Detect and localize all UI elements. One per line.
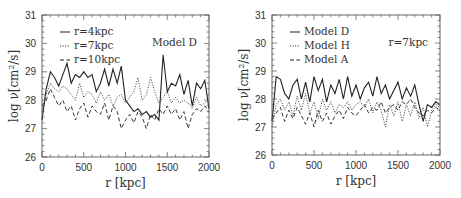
y-tick-label: 30 (25, 38, 37, 49)
y-tick-label: 29 (25, 66, 37, 77)
x-tick-labels: 0500100015002000 (269, 160, 451, 171)
data-series-group (42, 55, 209, 129)
y-tick-label: 26 (25, 152, 37, 163)
y-tick-label: 26 (255, 150, 267, 161)
x-tick-label: 1000 (114, 162, 137, 173)
x-tick-label: 0 (39, 162, 45, 173)
x-tick-label: 500 (306, 160, 323, 171)
legend-label: r=10kpc (74, 53, 120, 65)
x-tick-label: 1500 (156, 162, 179, 173)
line-chart-r7kpc: 0500100015002000262728293031r [kpc]log ν… (230, 0, 461, 198)
series-line-model-h (272, 93, 440, 127)
y-axis-title: log ν[cm²/s] (237, 49, 251, 121)
data-series-group (272, 77, 440, 127)
x-tick-label: 500 (75, 162, 92, 173)
y-tick-labels: 262728293031 (25, 10, 37, 163)
x-tick-labels: 0500100015002000 (39, 162, 220, 173)
chart-panel-left: 0500100015002000262728293031r [kpc]log ν… (0, 0, 230, 198)
legend: Model DModel HModel A (290, 25, 350, 65)
series-line-r-10kpc (42, 89, 209, 129)
x-tick-label: 1000 (345, 160, 368, 171)
x-tick-label: 2000 (429, 160, 452, 171)
y-tick-label: 28 (255, 94, 267, 105)
panel-annotation: r=7kpc (389, 36, 429, 48)
y-tick-label: 31 (25, 10, 37, 21)
y-tick-label: 28 (25, 95, 37, 106)
series-line-model-d (272, 77, 440, 122)
y-tick-label: 30 (255, 38, 267, 49)
legend-label: Model A (304, 53, 349, 65)
y-tick-label: 27 (25, 123, 37, 134)
chart-panel-right: 0500100015002000262728293031r [kpc]log ν… (230, 0, 461, 198)
legend: r=4kpcr=7kpcr=10kpc (60, 25, 120, 65)
panel-annotation: Model D (152, 36, 197, 48)
legend-label: Model H (304, 39, 350, 51)
x-axis-title: r [kpc] (105, 176, 146, 190)
series-line-r-4kpc (42, 55, 209, 120)
y-tick-label: 31 (255, 10, 267, 21)
x-tick-label: 2000 (198, 162, 221, 173)
y-tick-labels: 262728293031 (255, 10, 267, 161)
y-tick-label: 27 (255, 122, 267, 133)
legend-label: r=4kpc (74, 25, 114, 37)
legend-label: r=7kpc (74, 39, 114, 51)
x-tick-label: 0 (269, 160, 275, 171)
legend-label: Model D (304, 25, 349, 37)
y-tick-label: 29 (255, 66, 267, 77)
line-chart-model-d: 0500100015002000262728293031r [kpc]log ν… (0, 0, 230, 198)
x-tick-label: 1500 (387, 160, 410, 171)
x-axis-title: r [kpc] (336, 174, 377, 188)
y-axis-title: log ν[cm²/s] (7, 50, 21, 122)
